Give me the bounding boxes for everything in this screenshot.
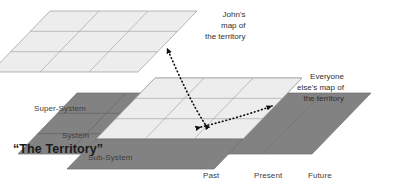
johns-map-label-line-1: John's xyxy=(205,9,245,20)
axis-label-present: Present xyxy=(254,171,282,182)
super-system-label: Super-System xyxy=(34,104,86,115)
system-label: System xyxy=(62,131,89,142)
everyone-map-label: Everyone else's map of the territory xyxy=(297,71,344,104)
johns-map-plane xyxy=(0,11,197,72)
everyone-map-label-line-1: Everyone xyxy=(297,71,344,82)
everyone-map-label-line-2: else's map of xyxy=(297,82,344,93)
johns-map-label: John's map of the territory xyxy=(205,9,245,42)
layered-planes-illustration xyxy=(0,0,406,190)
diagram-canvas: John's map of the territory Everyone els… xyxy=(0,0,406,190)
johns-map-label-line-2: map of xyxy=(205,20,245,31)
johns-map-plane-surface xyxy=(0,11,197,72)
everyone-map-label-line-3: the territory xyxy=(297,93,344,104)
axis-label-future: Future xyxy=(308,171,332,182)
johns-map-label-line-3: the territory xyxy=(205,31,245,42)
territory-title-label: “The Territory” xyxy=(13,142,103,156)
axis-label-past: Past xyxy=(203,171,219,182)
